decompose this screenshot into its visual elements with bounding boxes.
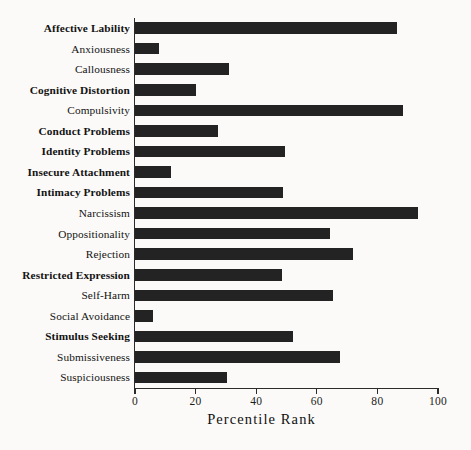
category-label: Affective Lability bbox=[44, 18, 130, 39]
bar-row: Restricted Expression bbox=[135, 265, 438, 286]
category-label: Cognitive Distortion bbox=[30, 80, 130, 101]
bar-row: Anxiousness bbox=[135, 39, 438, 60]
category-label: Rejection bbox=[86, 244, 130, 265]
bar bbox=[135, 146, 285, 158]
bar bbox=[135, 310, 153, 322]
bar-row: Identity Problems bbox=[135, 141, 438, 162]
x-axis-tick-label: 20 bbox=[190, 395, 202, 407]
bar bbox=[135, 248, 353, 260]
bar-row: Intimacy Problems bbox=[135, 182, 438, 203]
x-axis-tick-label: 0 bbox=[132, 395, 138, 407]
category-label: Conduct Problems bbox=[39, 121, 130, 142]
category-label: Insecure Attachment bbox=[28, 162, 130, 183]
bar bbox=[135, 331, 293, 343]
bar bbox=[135, 269, 282, 281]
bar bbox=[135, 105, 403, 117]
bar bbox=[135, 63, 229, 75]
category-label: Intimacy Problems bbox=[37, 182, 130, 203]
bar bbox=[135, 84, 196, 96]
x-axis-tick bbox=[256, 389, 257, 394]
bar bbox=[135, 187, 283, 199]
category-label: Compulsivity bbox=[67, 100, 130, 121]
bar-row: Insecure Attachment bbox=[135, 162, 438, 183]
bar-row: Social Avoidance bbox=[135, 306, 438, 327]
bar bbox=[135, 228, 330, 240]
x-axis-tick-label: 100 bbox=[429, 395, 447, 407]
bar-row: Oppositionality bbox=[135, 224, 438, 245]
category-label: Identity Problems bbox=[42, 141, 130, 162]
x-axis-tick-label: 80 bbox=[371, 395, 383, 407]
bar-row: Suspiciousness bbox=[135, 367, 438, 388]
x-axis-tick bbox=[437, 389, 438, 394]
bar bbox=[135, 351, 340, 363]
bar-row: Self-Harm bbox=[135, 285, 438, 306]
category-label: Submissiveness bbox=[57, 347, 130, 368]
category-label: Oppositionality bbox=[58, 224, 130, 245]
category-label: Anxiousness bbox=[71, 39, 130, 60]
x-axis-tick bbox=[134, 389, 135, 394]
category-label: Suspiciousness bbox=[60, 367, 130, 388]
x-axis-tick-label: 40 bbox=[250, 395, 262, 407]
category-label: Stimulus Seeking bbox=[45, 326, 130, 347]
bar bbox=[135, 290, 333, 302]
bar-row: Conduct Problems bbox=[135, 121, 438, 142]
x-axis-tick bbox=[377, 389, 378, 394]
bar bbox=[135, 125, 218, 137]
plot-area: Affective LabilityAnxiousnessCallousness… bbox=[135, 18, 438, 388]
bar bbox=[135, 166, 171, 178]
bar bbox=[135, 372, 227, 384]
x-axis-tick bbox=[316, 389, 317, 394]
x-axis-tick-label: 60 bbox=[311, 395, 323, 407]
bar-row: Stimulus Seeking bbox=[135, 326, 438, 347]
bar-row: Cognitive Distortion bbox=[135, 80, 438, 101]
bar bbox=[135, 22, 397, 34]
category-label: Self-Harm bbox=[81, 285, 130, 306]
bar-row: Rejection bbox=[135, 244, 438, 265]
category-label: Social Avoidance bbox=[50, 306, 130, 327]
bar-row: Compulsivity bbox=[135, 100, 438, 121]
category-label: Narcissism bbox=[79, 203, 130, 224]
bar-row: Submissiveness bbox=[135, 347, 438, 368]
bar bbox=[135, 207, 418, 219]
bar-row: Callousness bbox=[135, 59, 438, 80]
x-axis-tick bbox=[195, 389, 196, 394]
category-label: Restricted Expression bbox=[22, 265, 130, 286]
x-axis-title: Percentile Rank bbox=[0, 411, 471, 428]
bar-row: Narcissism bbox=[135, 203, 438, 224]
chart-page: 020406080100 Affective LabilityAnxiousne… bbox=[0, 0, 471, 450]
bar bbox=[135, 43, 159, 55]
bar-row: Affective Lability bbox=[135, 18, 438, 39]
x-axis-line bbox=[134, 388, 439, 389]
category-label: Callousness bbox=[75, 59, 130, 80]
